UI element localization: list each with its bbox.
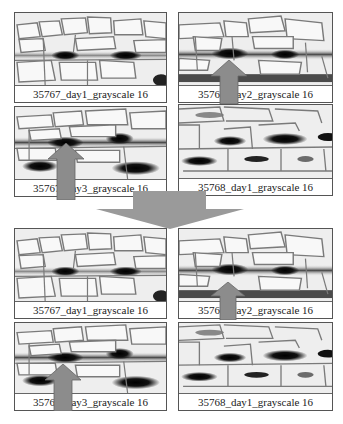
panel-bottom-35767-day3: 35767_day3_grayscale 16 — [14, 322, 167, 411]
panel-bottom-35768-day1: 35768_day1_grayscale 16 — [178, 322, 333, 411]
panel-bottom-35767-day2: 35767_day2_grayscale 16 — [178, 228, 333, 319]
cell-image — [179, 229, 332, 302]
panel-label: 35767_day1_grayscale 16 — [15, 85, 166, 102]
panel-label: 35768_day1_grayscale 16 — [179, 393, 332, 410]
panel-top-35767-day1: 35767_day1_grayscale 16 — [14, 12, 167, 103]
panel-top-35767-day2: 35767_day2_grayscale 16 — [178, 12, 333, 103]
panel-top-35768-day1: 35768_day1_grayscale 16 — [178, 104, 333, 196]
cell-image — [15, 107, 166, 180]
panel-bottom-35767-day1: 35767_day1_grayscale 16 — [14, 228, 167, 319]
panel-label: 35767_day3_grayscale 16 — [15, 393, 166, 410]
panel-label: 35767_day1_grayscale 16 — [15, 301, 166, 318]
cell-image — [15, 13, 166, 86]
cell-image — [179, 105, 332, 179]
panel-label: 35767_day2_grayscale 16 — [179, 85, 332, 102]
indicator-arrow-up-icon — [48, 143, 84, 200]
cell-image — [15, 229, 166, 302]
cell-image — [179, 323, 332, 394]
panel-label: 35767_day2_grayscale 16 — [179, 301, 332, 318]
indicator-arrow-up-icon — [211, 60, 247, 104]
indicator-arrow-up-icon — [45, 364, 81, 411]
down-arrow-icon — [96, 191, 244, 229]
cell-image — [179, 13, 332, 86]
panel-top-35767-day3: 35767_day3_grayscale 16 — [14, 106, 167, 197]
cell-image — [15, 323, 166, 394]
indicator-arrow-up-icon — [211, 282, 245, 320]
